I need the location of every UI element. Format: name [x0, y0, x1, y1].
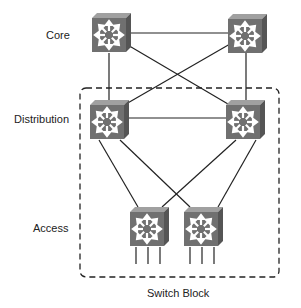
network-diagram	[0, 0, 301, 308]
distribution-label: Distribution	[14, 113, 69, 125]
access-switch-2	[184, 207, 223, 246]
core-switch-2	[228, 14, 267, 53]
links	[99, 33, 256, 264]
access-label: Access	[33, 222, 68, 234]
core-label: Core	[46, 29, 70, 41]
distribution-switch-2	[226, 100, 265, 139]
access-switch-1	[130, 207, 169, 246]
distribution-switch-1	[90, 100, 129, 139]
switch-block-label: Switch Block	[147, 287, 209, 299]
core-switch-1	[92, 13, 131, 52]
